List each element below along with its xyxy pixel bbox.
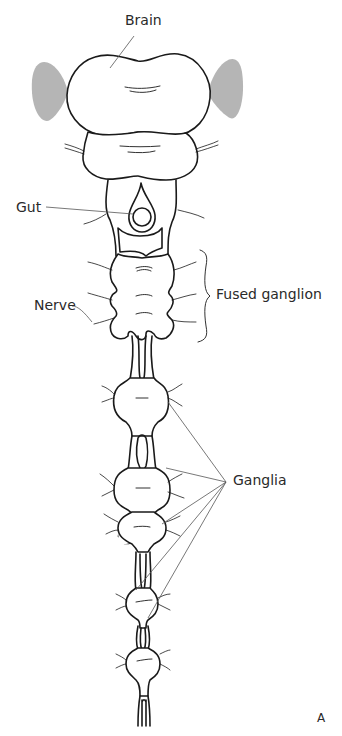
gut [133, 208, 151, 226]
gut-leader-line [46, 207, 133, 214]
label-fused-ganglion: Fused ganglion [216, 286, 322, 302]
terminal-nerves [138, 696, 150, 726]
left-optic-lobe [32, 62, 68, 121]
right-optic-lobe [208, 59, 243, 119]
label-brain: Brain [125, 12, 162, 28]
esophageal-connective-left [106, 180, 116, 256]
esophageal-connective-right [168, 180, 176, 256]
abdominal-ganglion-1 [114, 378, 169, 436]
label-gut: Gut [16, 199, 41, 215]
abdominal-ganglion-5 [126, 648, 160, 696]
nervous-system-diagram [0, 0, 342, 736]
panel-label: A [317, 711, 325, 725]
label-nerve: Nerve [34, 297, 76, 313]
abdominal-ganglion-4 [126, 588, 158, 628]
label-ganglia: Ganglia [233, 472, 287, 488]
subesophageal-ganglion [83, 132, 198, 180]
brain [67, 54, 210, 136]
